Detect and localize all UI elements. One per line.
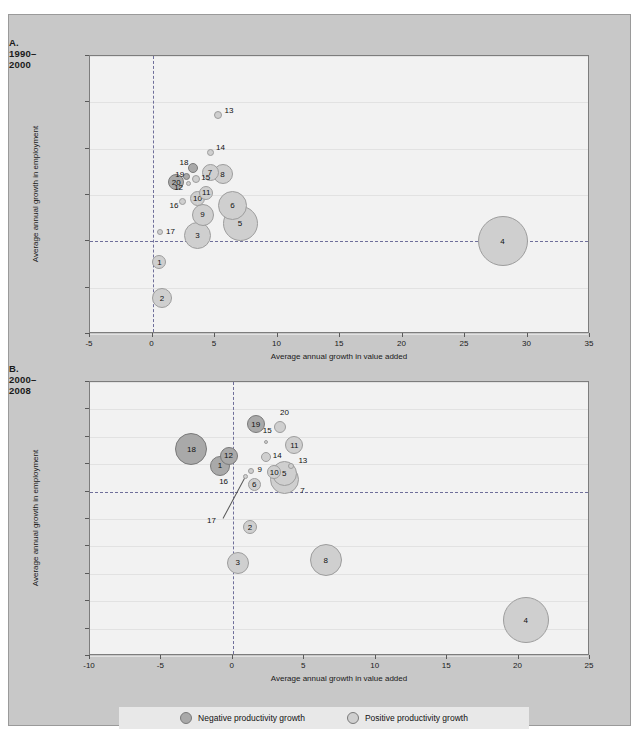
bubble-18[interactable]: 18: [175, 433, 207, 465]
gridline: [90, 437, 588, 438]
panel-a-plot-area: 4563928720101111813151416191712: [89, 55, 589, 333]
bubble-2[interactable]: 2: [152, 288, 172, 308]
bubble-8[interactable]: 8: [310, 544, 342, 576]
bubble-callout-label-16: 16: [170, 201, 179, 210]
y-tick-mark: [85, 408, 89, 409]
bubble-label: 6: [230, 201, 234, 210]
bubble-label: 12: [224, 451, 233, 460]
x-tick-label: 5: [212, 339, 216, 348]
y-tick-mark: [85, 287, 89, 288]
bubble-12[interactable]: 12: [220, 447, 238, 465]
bubble-label: 5: [238, 219, 242, 228]
x-tick-label: 25: [460, 339, 469, 348]
bubble-14[interactable]: [207, 149, 214, 156]
bubble-callout-label-13: 13: [298, 456, 307, 465]
bubble-label: 4: [523, 616, 527, 625]
bubble-3[interactable]: 3: [227, 552, 249, 574]
bubble-16[interactable]: [179, 198, 186, 205]
x-tick-mark: [402, 333, 403, 337]
bubble-18[interactable]: [188, 163, 198, 173]
bubble-3[interactable]: 3: [184, 222, 211, 249]
bubble-label: 8: [220, 170, 224, 179]
legend-label: Negative productivity growth: [198, 713, 305, 723]
bubble-label: 8: [323, 556, 327, 565]
bubble-callout-label-15: 15: [263, 426, 272, 435]
bubble-callout-label-14: 14: [273, 451, 282, 460]
bubble-label: 1: [218, 461, 222, 470]
bubble-callout-label-20: 20: [280, 408, 289, 417]
x-tick-label: 10: [370, 661, 379, 670]
y-tick-mark: [85, 600, 89, 601]
bubble-callout-label-14: 14: [216, 143, 225, 152]
panel-b-y-axis-title: Average annual growth in employment: [31, 381, 40, 655]
x-tick-mark: [464, 333, 465, 337]
x-tick-mark: [339, 333, 340, 337]
bubble-label: 6: [252, 480, 256, 489]
x-tick-label: 0: [230, 661, 234, 670]
x-tick-label: 20: [513, 661, 522, 670]
gridline: [90, 56, 588, 57]
x-tick-mark: [589, 333, 590, 337]
legend-swatch-pos-icon: [347, 712, 359, 724]
bubble-15[interactable]: [192, 175, 200, 183]
legend-swatch-neg-icon: [180, 712, 192, 724]
y-tick-mark: [85, 518, 89, 519]
bubble-9[interactable]: [248, 468, 254, 474]
panel-b-x-axis-title: Average annual growth in value added: [89, 674, 589, 683]
bubble-4[interactable]: 4: [478, 216, 528, 266]
x-tick-mark: [277, 333, 278, 337]
x-tick-mark: [303, 655, 304, 659]
bubble-6[interactable]: 6: [248, 478, 261, 491]
legend-item-neg[interactable]: Negative productivity growth: [180, 712, 305, 724]
bubble-12[interactable]: [186, 181, 191, 186]
y-tick-mark: [85, 463, 89, 464]
bubble-label: 9: [200, 210, 204, 219]
gridline: [90, 102, 588, 103]
x-tick-label: -5: [85, 339, 92, 348]
y-tick-mark: [85, 491, 89, 492]
y-tick-mark: [85, 55, 89, 56]
bubble-20[interactable]: [274, 421, 286, 433]
bubble-label: 18: [187, 445, 196, 454]
y-tick-mark: [85, 381, 89, 382]
gridline: [90, 546, 588, 547]
bubble-callout-label-16: 16: [219, 477, 228, 486]
bubble-label: 5: [282, 469, 286, 478]
bubble-14[interactable]: [261, 452, 271, 462]
bubble-17[interactable]: [157, 229, 163, 235]
x-tick-label: 30: [522, 339, 531, 348]
y-tick-mark: [85, 545, 89, 546]
x-tick-mark: [589, 655, 590, 659]
bubble-17[interactable]: [243, 474, 248, 479]
x-tick-label: 10: [272, 339, 281, 348]
y-tick-mark: [85, 628, 89, 629]
bubble-11[interactable]: 11: [199, 186, 213, 200]
x-tick-mark: [89, 655, 90, 659]
bubble-6[interactable]: 6: [218, 191, 247, 220]
x-tick-label: 25: [585, 661, 594, 670]
legend-item-pos[interactable]: Positive productivity growth: [347, 712, 468, 724]
legend-label: Positive productivity growth: [365, 713, 468, 723]
bubble-callout-label-17: 17: [207, 516, 216, 525]
bubble-9[interactable]: 9: [192, 204, 214, 226]
x-tick-mark: [518, 655, 519, 659]
x-tick-mark: [89, 333, 90, 337]
bubble-label: 1: [157, 258, 161, 267]
x-tick-label: 5: [301, 661, 305, 670]
bubble-15[interactable]: [264, 440, 268, 444]
x-tick-label: -5: [157, 661, 164, 670]
y-tick-mark: [85, 101, 89, 102]
bubble-11[interactable]: 11: [285, 436, 303, 454]
bubble-4[interactable]: 4: [503, 597, 549, 643]
gridline: [90, 574, 588, 575]
y-tick-mark: [85, 436, 89, 437]
bubble-2[interactable]: 2: [243, 520, 257, 534]
gridline: [90, 464, 588, 465]
bubble-label: 2: [248, 523, 252, 532]
gridline: [90, 149, 588, 150]
x-tick-label: 15: [442, 661, 451, 670]
bubble-1[interactable]: 1: [152, 255, 166, 269]
zero-line-vertical: [233, 382, 234, 654]
y-tick-mark: [85, 148, 89, 149]
bubble-13[interactable]: [214, 111, 222, 119]
